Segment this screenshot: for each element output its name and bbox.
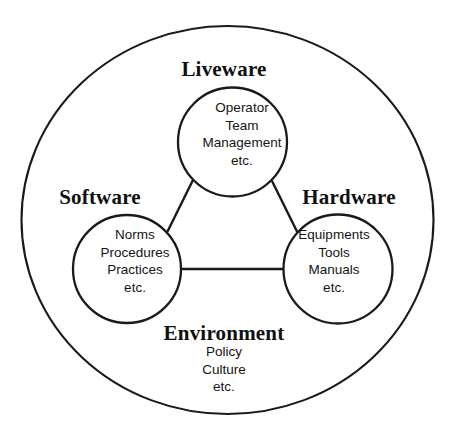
environment-item-1: Culture <box>202 361 246 379</box>
software-item-3: etc. <box>100 279 169 297</box>
liveware-item-1: Team <box>203 117 282 135</box>
hardware-item-1: Tools <box>298 244 369 262</box>
hardware-item-2: Manuals <box>298 261 369 279</box>
liveware-items: Operator Team Management etc. <box>203 99 282 169</box>
software-item-2: Practices <box>100 261 169 279</box>
hardware-item-3: etc. <box>298 279 369 297</box>
hardware-items: Equipments Tools Manuals etc. <box>298 226 369 296</box>
liveware-item-3: etc. <box>203 152 282 170</box>
hardware-label: Hardware <box>302 185 395 210</box>
software-item-1: Procedures <box>100 244 169 262</box>
liveware-item-2: Management <box>203 134 282 152</box>
environment-items: Policy Culture etc. <box>202 343 246 396</box>
environment-item-0: Policy <box>202 343 246 361</box>
software-label: Software <box>59 185 141 210</box>
connector-liveware-hardware <box>272 181 297 232</box>
environment-item-2: etc. <box>202 378 246 396</box>
liveware-item-0: Operator <box>203 99 282 117</box>
liveware-label: Liveware <box>181 57 266 82</box>
connector-software-liveware <box>168 181 193 232</box>
hardware-item-0: Equipments <box>298 226 369 244</box>
shell-model-diagram: Liveware Operator Team Management etc. S… <box>0 0 457 438</box>
software-item-0: Norms <box>100 226 169 244</box>
software-items: Norms Procedures Practices etc. <box>100 226 169 296</box>
